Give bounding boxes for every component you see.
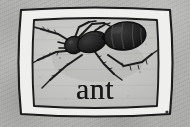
- flashcard: ant: [0, 0, 190, 127]
- word-label: ant: [0, 74, 190, 104]
- corner-speck-icon: [165, 110, 168, 113]
- ant-flashcard-artwork: [0, 0, 190, 127]
